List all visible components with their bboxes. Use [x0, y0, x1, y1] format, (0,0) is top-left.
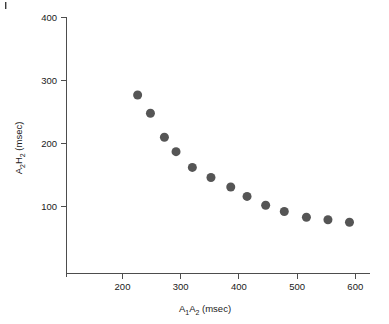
data-point — [226, 182, 235, 191]
data-point — [243, 192, 252, 201]
data-point — [323, 215, 332, 224]
y-axis-title: A2H2 (msec) — [13, 122, 26, 175]
y-tick-label-100: 100 — [41, 201, 57, 212]
y-tick-label-200: 200 — [41, 138, 57, 149]
y-axis-title-post: (msec) — [13, 122, 24, 154]
x-axis-ticks — [123, 274, 356, 280]
x-axis-tick-labels: 200 300 400 500 600 — [115, 281, 364, 292]
y-axis-tick-labels: 400 300 200 100 — [41, 12, 57, 212]
x-tick-label-600: 600 — [347, 281, 363, 292]
data-point — [261, 201, 270, 210]
data-point — [172, 147, 181, 156]
data-point — [160, 133, 169, 142]
scatter-plot-figure: 400 300 200 100 200 300 400 500 600 A1A2… — [0, 0, 389, 324]
y-tick-label-400: 400 — [41, 12, 57, 23]
data-point-series — [133, 90, 354, 226]
data-point — [188, 163, 197, 172]
data-point — [280, 207, 289, 216]
x-axis-title-post: (msec) — [199, 303, 231, 314]
data-point — [133, 90, 142, 99]
x-tick-label-400: 400 — [231, 281, 247, 292]
x-tick-label-300: 300 — [173, 281, 189, 292]
x-axis-title: A1A2 (msec) — [179, 303, 231, 316]
data-point — [206, 173, 215, 182]
y-tick-label-300: 300 — [41, 75, 57, 86]
data-point — [302, 213, 311, 222]
data-point — [345, 218, 354, 227]
corner-artifact-mark — [5, 2, 6, 9]
plot-canvas: 400 300 200 100 200 300 400 500 600 A1A2… — [0, 0, 389, 324]
data-point — [146, 109, 155, 118]
x-tick-label-500: 500 — [289, 281, 305, 292]
y-axis-ticks — [61, 18, 67, 207]
x-tick-label-200: 200 — [115, 281, 131, 292]
